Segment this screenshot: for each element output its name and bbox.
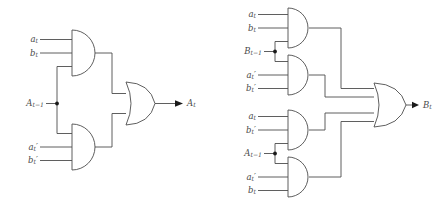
label-left-output: At bbox=[187, 99, 196, 109]
and-gate-a1-body bbox=[72, 30, 95, 76]
carry-in-b-junction-dot bbox=[273, 50, 277, 54]
label-left-input-a-t-prime: at′ bbox=[16, 143, 38, 153]
label-left-input-a-t: at bbox=[18, 35, 38, 45]
label-right-g3-input-b-prime: bt′ bbox=[234, 126, 256, 136]
and-gate-a2-to-or-wire bbox=[112, 114, 126, 148]
carry-in-a2-junction-dot bbox=[273, 152, 277, 156]
label-right-g3-input-a: at bbox=[236, 112, 256, 122]
label-right-g2-input-b-prime: bt′ bbox=[234, 84, 256, 94]
and-gate-b4-to-or-wire bbox=[341, 122, 374, 178]
label-right-g2-input-a-prime: at′ bbox=[234, 71, 256, 81]
label-right-g4-input-a-prime: at′ bbox=[234, 173, 256, 183]
and-gate-b2-to-or-wire bbox=[325, 75, 374, 97]
or-gate-a-output-arrowhead bbox=[175, 100, 183, 107]
label-left-carry-in: At−1 bbox=[4, 99, 44, 109]
circuit-b-group bbox=[258, 8, 419, 197]
label-right-g1-input-b: bt bbox=[236, 24, 256, 34]
carry-in-a-junction-dot bbox=[55, 102, 59, 106]
and-gate-b3-body bbox=[288, 110, 308, 150]
or-gate-b-output-arrowhead bbox=[412, 102, 419, 109]
or-gate-a-body bbox=[126, 82, 155, 125]
diagram-canvas: at bt At−1 at′ bt′ At at bt Bt−1 at′ bt′… bbox=[0, 0, 433, 216]
label-right-g4-input-b: bt bbox=[236, 186, 256, 196]
label-left-input-b-t-prime: bt′ bbox=[16, 156, 38, 166]
label-right-g1-input-a: at bbox=[236, 10, 256, 20]
and-gate-b1-body bbox=[288, 8, 308, 48]
circuit-svg bbox=[0, 0, 433, 216]
and-gate-a2-body bbox=[72, 124, 95, 170]
and-gate-b4-body bbox=[288, 157, 308, 197]
or-gate-b-body bbox=[374, 83, 406, 127]
label-right-carry-in-b: Bt−1 bbox=[222, 47, 262, 57]
and-gate-b2-body bbox=[288, 55, 308, 95]
and-gate-b1-to-or-wire bbox=[341, 28, 374, 89]
label-right-output: Bt bbox=[423, 101, 432, 111]
and-gate-a1-to-or-wire bbox=[112, 53, 126, 94]
circuit-a-group bbox=[40, 30, 183, 170]
label-right-carry-in-a: At−1 bbox=[222, 149, 262, 159]
label-left-input-b-t: bt bbox=[18, 49, 38, 59]
